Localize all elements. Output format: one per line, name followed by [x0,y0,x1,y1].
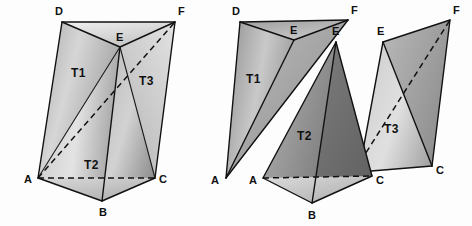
right-panel-exploded-tetrahedra: D E F A T1 E F C T3 [211,4,460,221]
region-label-T2-left: T2 [84,158,99,172]
vertex-label-A-left: A [24,173,32,185]
vertex-label-E-T2: E [332,25,339,37]
vertex-label-E-left: E [116,31,123,43]
vertex-label-A-T1: A [211,174,219,186]
face-T2-A-B-C [263,176,372,203]
vertex-label-D-T1: D [232,5,240,17]
tetrahedron-T3: E F C T3 [350,4,460,178]
vertex-label-B-T2: B [308,209,316,221]
vertex-label-C-T3-far: C [436,164,444,176]
region-label-T1-left: T1 [71,66,86,80]
vertex-label-E-T3: E [377,25,384,37]
region-label-T1-right: T1 [246,72,261,86]
vertex-label-A-T2: A [249,174,257,186]
vertex-label-F-T3: F [453,4,460,16]
prism-decomposition-diagram: D F E A C B T1 T3 T2 D [0,0,472,226]
vertex-label-D-left: D [55,5,63,17]
vertex-label-F-T1: F [351,4,358,16]
region-label-T2-right: T2 [297,129,312,143]
vertex-label-C-T2: C [376,174,384,186]
region-label-T3-left: T3 [139,74,154,88]
geometry-figure-root: D F E A C B T1 T3 T2 D [0,0,472,226]
face-A-B-C-bottom-left [38,178,155,201]
left-panel-assembled-prism: D F E A C B T1 T3 T2 [24,5,185,218]
region-label-T3-right: T3 [384,122,399,136]
vertex-label-C-left: C [159,173,167,185]
vertex-label-F-left: F [178,5,185,17]
vertex-label-E-T1: E [290,24,297,36]
vertex-label-B-left: B [99,206,107,218]
